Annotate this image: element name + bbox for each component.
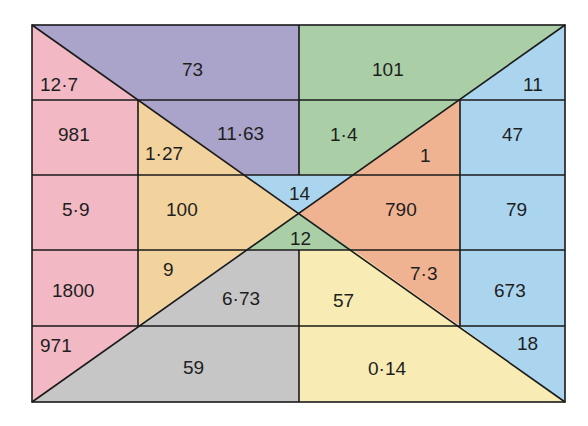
- label-r3-tan: 100: [166, 199, 198, 220]
- label-r4-blue: 673: [494, 280, 526, 301]
- label-top-right-blue: 11: [523, 74, 543, 95]
- label-top-purple: 73: [182, 59, 203, 80]
- label-top-green: 101: [372, 59, 404, 80]
- label-r3-blue: 79: [506, 199, 527, 220]
- label-r2-tan: 1·27: [145, 143, 183, 164]
- label-top-left-pink: 12·7: [40, 74, 78, 95]
- label-r3-pink: 5·9: [62, 199, 89, 220]
- label-center-blue: 14: [289, 183, 311, 204]
- label-r4-gray: 6·73: [222, 288, 260, 309]
- label-bottom-right-blue: 18: [517, 333, 538, 354]
- label-r3-orange: 790: [385, 199, 417, 220]
- number-grid-diagram: 12·7 73 101 11 981 1·27 11·63 1·4 1 47 1…: [0, 0, 588, 426]
- label-r2-green: 1·4: [330, 124, 358, 145]
- label-bottom-yellow: 0·14: [368, 358, 406, 379]
- label-r2-orange: 1: [420, 145, 431, 166]
- label-r4-orange: 7·3: [410, 263, 437, 284]
- label-r4-tan: 9: [163, 259, 174, 280]
- label-r2-purple: 11·63: [217, 123, 264, 144]
- label-center-green: 12: [290, 228, 311, 249]
- label-r4-yellow: 57: [333, 290, 354, 311]
- label-r4-pink: 1800: [52, 280, 94, 301]
- label-r2-pink: 981: [58, 124, 90, 145]
- label-bottom-gray: 59: [183, 357, 204, 378]
- label-bottom-left-pink: 971: [40, 335, 72, 356]
- label-r2-blue: 47: [502, 124, 523, 145]
